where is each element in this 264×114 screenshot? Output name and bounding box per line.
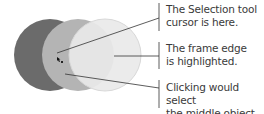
callout-middle-object-line2: the middle object. [166, 107, 264, 114]
callout-frame-edge-line1: The frame edge [166, 42, 247, 55]
callout-cursor: The Selection tool cursor is here. [166, 3, 257, 29]
callout-middle-object-line1: Clicking would select [166, 81, 264, 107]
callout-cursor-line2: cursor is here. [166, 16, 257, 29]
callout-frame-edge-line2: is highlighted. [166, 55, 247, 68]
callout-middle-object: Clicking would select the middle object. [166, 81, 264, 114]
callout-frame-edge: The frame edge is highlighted. [166, 42, 247, 68]
callout-cursor-line1: The Selection tool [166, 3, 257, 16]
